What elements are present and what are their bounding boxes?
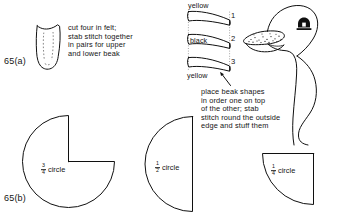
- duck-head-illustration: [242, 0, 339, 145]
- quarter-circle-label: 1 4 circle: [271, 164, 295, 177]
- fraction-three-quarters: 3 4: [41, 163, 46, 176]
- beak-shape-stack: [184, 9, 236, 75]
- three-quarter-circle-label: 3 4 circle: [41, 163, 65, 176]
- pattern-sheet: 65(a) cut four in felt; stab stitch toge…: [0, 0, 339, 215]
- half-circle-label: 1 2 circle: [155, 161, 179, 174]
- three-quarter-circle-shape: [20, 113, 118, 213]
- beak-gusset-piece: [34, 23, 64, 71]
- circle-word-3: circle: [278, 166, 295, 175]
- circle-word-1: circle: [48, 165, 65, 174]
- duck-eye-shape: [297, 18, 312, 30]
- circle-word-2: circle: [162, 163, 179, 172]
- quarter-circle-shape: [257, 148, 319, 210]
- beak-piece-instructions: cut four in felt; stab stitch together i…: [68, 24, 152, 58]
- fraction-one-quarter: 1 4: [271, 164, 276, 177]
- fraction-one-half: 1 2: [155, 161, 160, 174]
- figure-label-65a: 65(a): [4, 56, 26, 66]
